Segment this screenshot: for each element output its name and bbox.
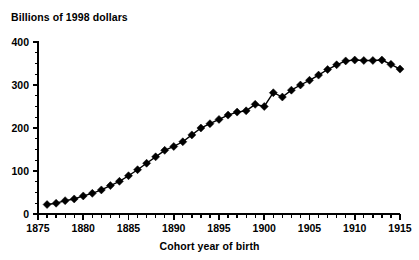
x-tick-label: 1900 (253, 222, 277, 234)
data-point-marker (269, 89, 277, 97)
data-point-marker (43, 201, 51, 209)
x-tick-label: 1885 (117, 222, 141, 234)
data-point-marker (378, 56, 386, 64)
data-point-marker (396, 65, 404, 73)
data-point-marker (224, 111, 232, 119)
data-point-marker (369, 56, 377, 64)
y-tick-label: 0 (23, 208, 29, 220)
data-point-marker (115, 177, 123, 185)
data-point-marker (351, 56, 359, 64)
x-tick-label: 1895 (207, 222, 231, 234)
x-tick-label: 1910 (343, 222, 367, 234)
data-point-marker (260, 103, 268, 111)
data-point-marker (206, 120, 214, 128)
data-point-marker (387, 60, 395, 68)
data-point-marker (233, 108, 241, 116)
data-series-markers (43, 56, 404, 208)
data-point-marker (70, 195, 78, 203)
plot-canvas: 0100200300400 18751880188518901895190019… (0, 0, 419, 260)
data-point-marker (79, 192, 87, 200)
data-point-marker (296, 81, 304, 89)
data-point-marker (125, 172, 133, 180)
x-axis-tick-labels: 187518801885189018951900190519101915 (26, 222, 412, 234)
data-series-line (47, 60, 400, 204)
data-point-marker (333, 61, 341, 69)
data-point-marker (342, 57, 350, 65)
y-tick-label: 100 (11, 165, 29, 177)
data-point-marker (88, 189, 96, 197)
data-point-marker (306, 76, 314, 84)
data-point-marker (360, 56, 368, 64)
y-axis-tick-labels: 0100200300400 (11, 36, 29, 220)
x-tick-label: 1880 (72, 222, 96, 234)
y-tick-label: 400 (11, 36, 29, 48)
data-point-marker (324, 66, 332, 74)
data-point-marker (61, 197, 69, 205)
data-point-marker (106, 182, 114, 190)
data-point-marker (170, 142, 178, 150)
data-point-marker (97, 186, 105, 194)
y-tick-label: 300 (11, 79, 29, 91)
x-tick-label: 1915 (388, 222, 412, 234)
x-tick-label: 1875 (26, 222, 50, 234)
data-point-marker (315, 71, 323, 79)
data-point-marker (52, 199, 60, 207)
chart-figure: Billions of 1998 dollars 0100200300400 1… (0, 0, 419, 260)
data-point-marker (215, 115, 223, 123)
x-axis-title: Cohort year of birth (0, 240, 419, 252)
y-tick-label: 200 (11, 122, 29, 134)
x-tick-label: 1905 (298, 222, 322, 234)
x-tick-label: 1890 (162, 222, 186, 234)
